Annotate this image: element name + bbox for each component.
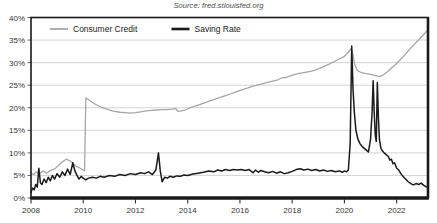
y-axis-tick-labels: 0%5%10%15%20%25%30%35%40% <box>9 14 25 204</box>
series-line-saving-rate <box>31 46 427 193</box>
x-tick-label: 2014 <box>179 206 197 215</box>
x-tick-label: 2010 <box>74 206 92 215</box>
y-tick-label: 10% <box>9 149 25 158</box>
x-tick-label: 2022 <box>388 206 406 215</box>
x-axis-tick-labels: 20082010201220142016201820202022 <box>22 206 406 215</box>
chart-container: Source: fred.stlouisfed.org 0%5%10%15%20… <box>0 0 437 223</box>
line-chart-svg: 0%5%10%15%20%25%30%35%40% 20082010201220… <box>0 0 437 223</box>
y-tick-label: 5% <box>13 171 25 180</box>
x-axis-tick-marks <box>31 200 397 204</box>
x-tick-label: 2008 <box>22 206 40 215</box>
legend-label-consumer-credit: Consumer Credit <box>73 24 138 34</box>
x-tick-label: 2012 <box>127 206 145 215</box>
y-tick-label: 35% <box>9 36 25 45</box>
legend-label-saving-rate: Saving Rate <box>195 24 242 34</box>
chart-legend: Consumer CreditSaving Rate <box>50 24 241 34</box>
x-tick-label: 2018 <box>283 206 301 215</box>
y-tick-label: 20% <box>9 104 25 113</box>
y-tick-label: 30% <box>9 59 25 68</box>
gridline-group <box>31 40 428 175</box>
data-series-group <box>31 31 427 193</box>
y-tick-label: 25% <box>9 81 25 90</box>
x-tick-label: 2016 <box>231 206 249 215</box>
y-tick-label: 40% <box>9 14 25 23</box>
y-tick-label: 0% <box>13 194 25 203</box>
y-tick-label: 15% <box>9 126 25 135</box>
x-tick-label: 2020 <box>336 206 354 215</box>
